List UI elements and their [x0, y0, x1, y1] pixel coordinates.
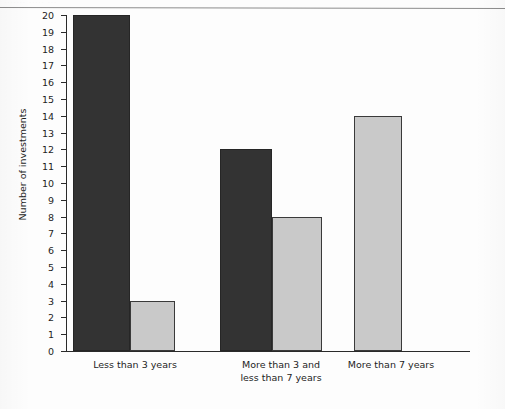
bar-light-series-2	[354, 116, 402, 351]
bar-light-series-1	[272, 217, 322, 351]
bar-dark-series-0	[73, 15, 130, 351]
y-tick-6: 6	[61, 250, 66, 251]
x-axis-label-2: More than 7 years	[316, 359, 466, 372]
y-tick-3: 3	[61, 301, 66, 302]
y-tick-label-12: 12	[42, 144, 54, 155]
y-tick-label-6: 6	[48, 245, 54, 256]
y-tick-8: 8	[61, 217, 66, 218]
y-tick-2: 2	[61, 317, 66, 318]
y-tick-label-14: 14	[42, 110, 54, 121]
y-tick-10: 10	[61, 183, 66, 184]
bar-dark-series-1	[220, 149, 272, 351]
y-tick-label-11: 11	[42, 161, 54, 172]
y-tick-4: 4	[61, 284, 66, 285]
y-tick-15: 15	[61, 99, 66, 100]
y-tick-17: 17	[61, 65, 66, 66]
y-tick-label-1: 1	[48, 329, 54, 340]
y-tick-0: 0	[61, 351, 66, 352]
y-tick-13: 13	[61, 133, 66, 134]
scanned-page: ....... ..... ... Number of investments …	[0, 0, 505, 409]
y-tick-11: 11	[61, 166, 66, 167]
y-tick-label-10: 10	[42, 178, 54, 189]
x-axis-label-0: Less than 3 years	[60, 359, 210, 372]
y-tick-label-8: 8	[48, 211, 54, 222]
y-tick-label-13: 13	[42, 127, 54, 138]
y-tick-label-9: 9	[48, 194, 54, 205]
y-tick-18: 18	[61, 49, 66, 50]
x-axis-line	[66, 351, 470, 352]
y-tick-label-3: 3	[48, 295, 54, 306]
y-tick-label-19: 19	[42, 26, 54, 37]
y-tick-16: 16	[61, 82, 66, 83]
y-tick-label-0: 0	[48, 346, 54, 357]
y-tick-label-7: 7	[48, 228, 54, 239]
y-tick-20: 20	[61, 15, 66, 16]
y-tick-1: 1	[61, 334, 66, 335]
y-tick-19: 19	[61, 32, 66, 33]
y-tick-label-2: 2	[48, 312, 54, 323]
y-tick-label-18: 18	[42, 43, 54, 54]
y-tick-label-20: 20	[42, 10, 54, 21]
y-axis-title: Number of investments	[17, 65, 28, 265]
y-tick-label-15: 15	[42, 94, 54, 105]
y-tick-14: 14	[61, 116, 66, 117]
bar-chart: Number of investments 012345678910111213…	[0, 9, 505, 405]
y-tick-12: 12	[61, 149, 66, 150]
y-tick-label-5: 5	[48, 262, 54, 273]
bar-light-series-0	[130, 301, 175, 351]
y-tick-label-16: 16	[42, 77, 54, 88]
y-axis-line	[66, 15, 67, 352]
y-tick-label-4: 4	[48, 278, 54, 289]
plot-area: 01234567891011121314151617181920 Less th…	[66, 15, 470, 351]
y-tick-9: 9	[61, 200, 66, 201]
y-tick-label-17: 17	[42, 60, 54, 71]
y-tick-7: 7	[61, 233, 66, 234]
cut-off-header-text: ....... ..... ...	[4, 0, 57, 3]
y-tick-5: 5	[61, 267, 66, 268]
